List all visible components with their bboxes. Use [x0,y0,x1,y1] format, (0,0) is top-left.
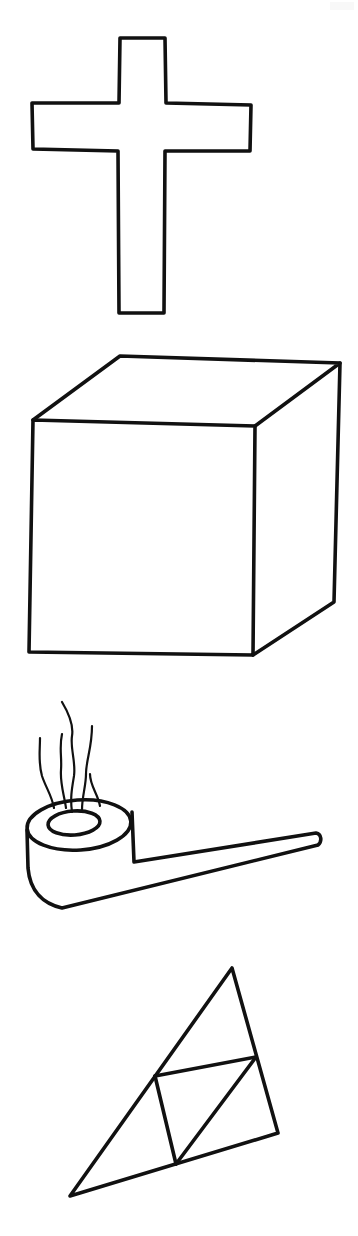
cube-icon [0,330,358,680]
figure-cube: Cube [0,330,358,680]
triangle-icon [0,940,358,1236]
cross-icon [0,0,358,330]
figure-pipe: Smoking pipe [0,680,358,940]
document-page: Cross Cube Smoking pipe [0,0,358,1236]
figure-cross: Cross [0,0,358,330]
figure-triangle: Subdivided triangle [0,940,358,1236]
pipe-icon [0,680,358,940]
